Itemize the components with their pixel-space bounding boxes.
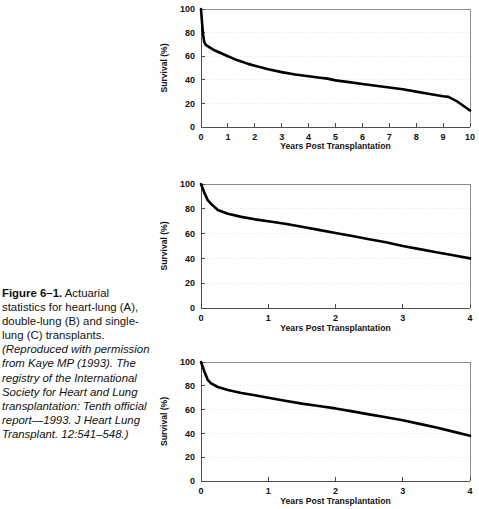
y-tick-label: 80 (185, 28, 195, 38)
y-tick-label: 80 (185, 204, 195, 214)
y-tick-label: 80 (185, 381, 195, 391)
figure-page: Figure 6–1. Actuarial statistics for hea… (0, 0, 479, 509)
chart-panel-c: 02040608010001234Years Post Transplantat… (155, 353, 479, 509)
x-tick-label: 4 (467, 313, 472, 323)
y-tick-label: 20 (185, 452, 195, 462)
x-axis-title: Years Post Transplantation (280, 141, 390, 151)
y-tick-label: 20 (185, 278, 195, 288)
survival-chart-a: 020406080100012345678910Years Post Trans… (155, 0, 479, 160)
x-tick-label: 1 (266, 486, 271, 496)
y-tick-label: 0 (190, 122, 195, 132)
x-tick-label: 0 (198, 486, 203, 496)
figure-credit: (Reproduced with permission from Kaye MP… (2, 343, 150, 440)
x-tick-label: 0 (198, 313, 203, 323)
y-tick-label: 40 (185, 254, 195, 264)
y-tick-label: 0 (190, 476, 195, 486)
x-tick-label: 8 (414, 132, 419, 142)
x-tick-label: 1 (225, 132, 230, 142)
x-tick-label: 2 (333, 313, 338, 323)
y-tick-label: 100 (180, 357, 195, 367)
x-tick-label: 9 (441, 132, 446, 142)
y-tick-label: 20 (185, 99, 195, 109)
y-axis-title: Survival (%) (159, 221, 169, 270)
figure-caption: Figure 6–1. Actuarial statistics for hea… (2, 286, 154, 441)
survival-chart-b: 02040608010001234Years Post Transplantat… (155, 168, 479, 346)
x-tick-label: 2 (333, 486, 338, 496)
x-axis-title: Years Post Transplantation (280, 496, 390, 506)
survival-curve (201, 362, 470, 436)
x-tick-label: 3 (400, 486, 405, 496)
y-tick-label: 60 (185, 405, 195, 415)
x-tick-label: 4 (467, 486, 472, 496)
y-tick-label: 60 (185, 229, 195, 239)
y-axis-title: Survival (%) (159, 397, 169, 446)
x-tick-label: 3 (400, 313, 405, 323)
survival-curve (201, 184, 470, 258)
x-tick-label: 2 (252, 132, 257, 142)
y-tick-label: 100 (180, 4, 195, 14)
x-axis-title: Years Post Transplantation (280, 323, 390, 333)
x-tick-label: 0 (198, 132, 203, 142)
chart-panel-a: 020406080100012345678910Years Post Trans… (155, 0, 479, 160)
figure-number: Figure 6–1. (2, 287, 62, 299)
y-tick-label: 60 (185, 51, 195, 61)
y-tick-label: 0 (190, 303, 195, 313)
x-tick-label: 1 (266, 313, 271, 323)
survival-chart-c: 02040608010001234Years Post Transplantat… (155, 353, 479, 509)
y-axis-title: Survival (%) (159, 43, 169, 92)
y-tick-label: 40 (185, 429, 195, 439)
y-tick-label: 100 (180, 179, 195, 189)
y-tick-label: 40 (185, 75, 195, 85)
x-tick-label: 10 (465, 132, 475, 142)
chart-panel-b: 02040608010001234Years Post Transplantat… (155, 168, 479, 346)
survival-curve (201, 9, 470, 110)
